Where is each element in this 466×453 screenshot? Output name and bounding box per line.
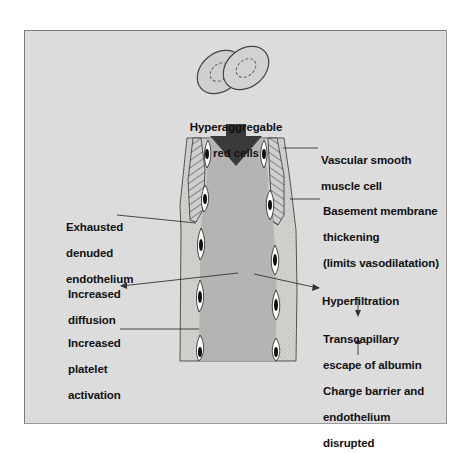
label-line: disrupted <box>323 437 424 450</box>
red-blood-cells-icon <box>189 37 278 102</box>
label-line: activation <box>68 389 121 402</box>
label-line: (limits vasodilatation) <box>323 257 439 270</box>
label-line: Increased <box>68 337 121 350</box>
label-line: endothelium <box>323 411 424 424</box>
label-line: Exhausted <box>66 221 133 234</box>
label-line: red cells <box>186 147 286 160</box>
label-line: thickening <box>323 231 439 244</box>
label-hyperfiltration: Hyperfiltration <box>322 282 399 321</box>
label-charge-barrier: Charge barrier and endothelium disrupted <box>323 372 424 453</box>
label-line: platelet <box>68 363 121 376</box>
label-line: Hyperfiltration <box>322 295 399 308</box>
label-line: Transcapillary <box>323 333 422 346</box>
label-line: Charge barrier and <box>323 385 424 398</box>
label-line: Hyperaggregable <box>186 121 286 134</box>
label-line: escape of albumin <box>323 359 422 372</box>
label-line: Vascular smooth <box>321 154 412 167</box>
label-line: Basement membrane <box>323 205 439 218</box>
label-line: denuded <box>66 247 133 260</box>
label-hyperaggregable-red-cells: Hyperaggregable red cells <box>186 108 286 173</box>
label-basement-membrane: Basement membrane thickening (limits vas… <box>323 192 439 283</box>
label-increased-platelet: Increased platelet activation <box>68 324 121 415</box>
label-line: Increased <box>68 288 121 301</box>
